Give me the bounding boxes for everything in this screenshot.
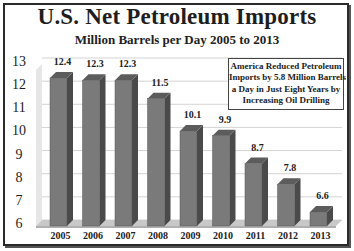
bar <box>148 99 165 226</box>
y-tick-label: 10 <box>8 123 30 139</box>
x-tick-label: 2012 <box>271 230 305 241</box>
x-tick-label: 2009 <box>174 230 208 241</box>
value-label: 11.5 <box>145 77 175 88</box>
annotation-box: America Reduced Petroleum Imports by 5.8… <box>228 58 344 110</box>
bar <box>115 80 132 226</box>
bar-side <box>67 72 73 226</box>
annotation-line: Increasing Oil Drilling <box>229 95 343 106</box>
x-tick-label: 2007 <box>109 230 143 241</box>
bar-side <box>132 74 138 226</box>
bar-side <box>197 125 203 226</box>
annotation-line: Imports by 5.8 Million Barrels <box>229 72 343 83</box>
bar <box>50 78 67 226</box>
bar <box>278 184 295 226</box>
value-label: 12.4 <box>48 56 78 67</box>
value-label: 8.7 <box>243 142 273 153</box>
x-tick-label: 2013 <box>304 230 338 241</box>
bar <box>310 212 327 226</box>
y-tick-label: 7 <box>8 193 30 209</box>
value-label: 9.9 <box>210 114 240 125</box>
y-tick-label: 6 <box>8 216 30 232</box>
bar <box>213 136 230 226</box>
value-label: 6.6 <box>308 190 338 201</box>
x-tick-label: 2011 <box>239 230 273 241</box>
y-tick-label: 9 <box>8 147 30 163</box>
value-label: 12.3 <box>80 58 110 69</box>
bar-side <box>295 178 301 226</box>
bar <box>83 80 100 226</box>
annotation-line: a Day in Just Eight Years by <box>229 84 343 95</box>
bar <box>180 131 197 226</box>
bar-side <box>165 93 171 226</box>
value-label: 10.1 <box>178 109 208 120</box>
value-label: 12.3 <box>113 58 143 69</box>
bar-side <box>262 158 268 226</box>
x-tick-label: 2006 <box>76 230 110 241</box>
y-tick-label: 8 <box>8 170 30 186</box>
bar-side <box>230 130 236 226</box>
bar <box>245 164 262 226</box>
x-tick-label: 2008 <box>141 230 175 241</box>
floor-edge <box>36 226 336 228</box>
annotation-line: America Reduced Petroleum <box>229 61 343 72</box>
y-tick-label: 12 <box>8 77 30 93</box>
value-label: 7.8 <box>275 162 305 173</box>
x-tick-label: 2010 <box>206 230 240 241</box>
x-tick-label: 2005 <box>44 230 78 241</box>
y-tick-label: 11 <box>8 100 30 116</box>
bar-side <box>100 74 106 226</box>
y-tick-label: 13 <box>8 54 30 70</box>
side-wall <box>36 64 42 226</box>
plot-area <box>0 0 354 251</box>
